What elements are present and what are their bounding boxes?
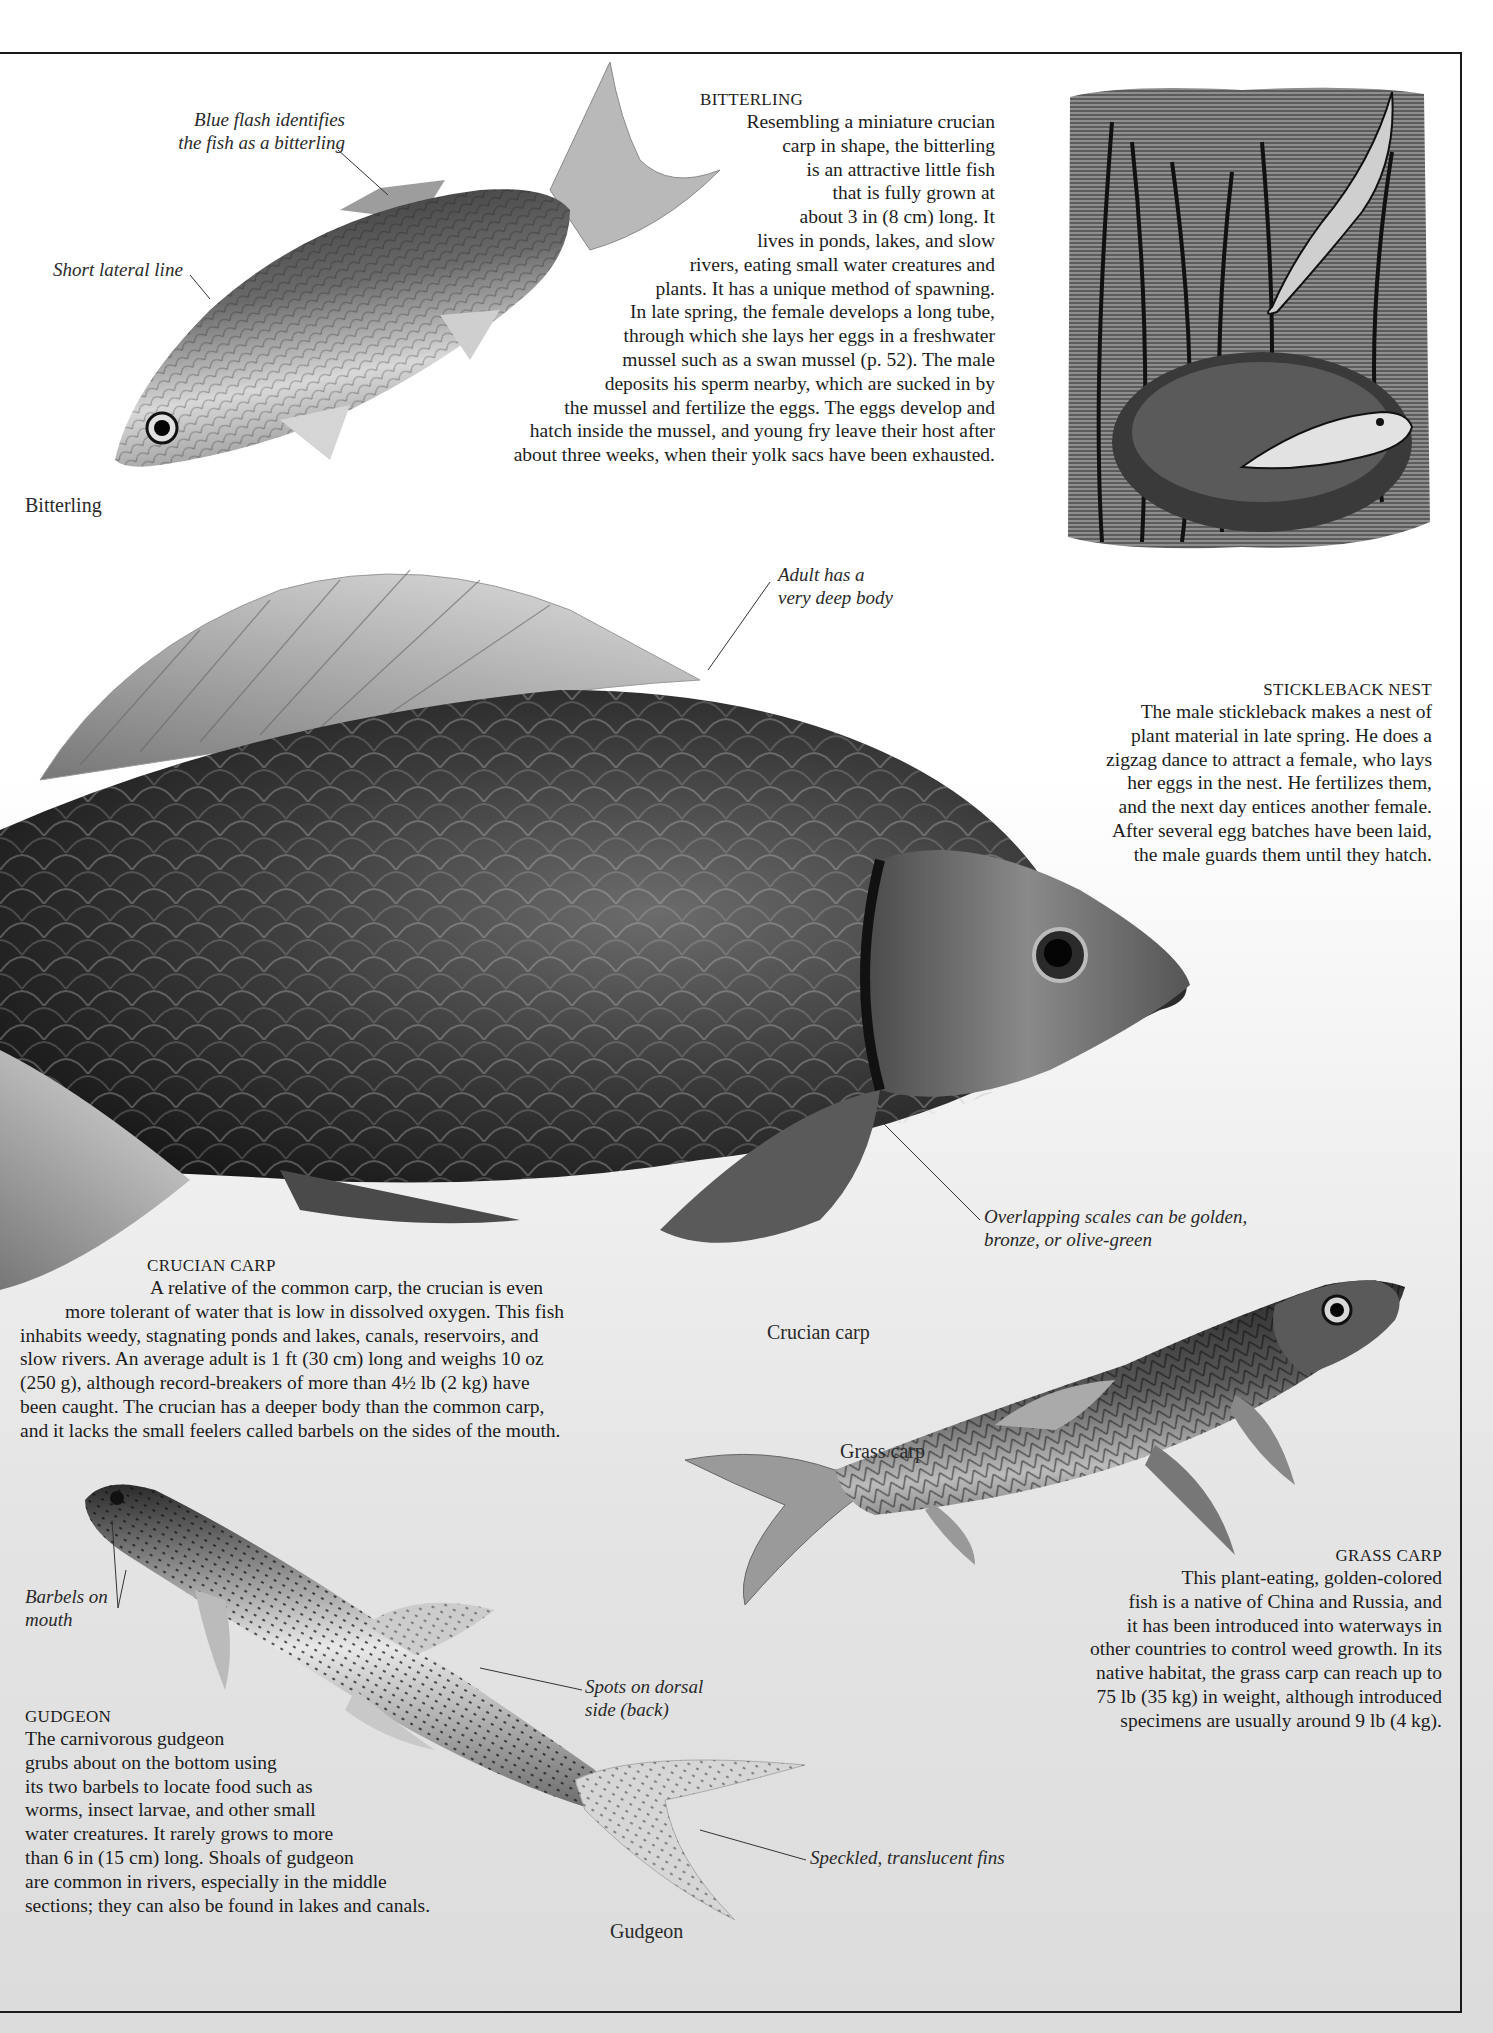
text-line: fish is a native of China and Russia, an…: [1000, 1590, 1442, 1614]
label-lateral-line: Short lateral line: [53, 258, 183, 281]
crucian-carp-fish-image: [0, 530, 1220, 1290]
text-line: than 6 in (15 cm) long. Shoals of gudgeo…: [25, 1846, 525, 1870]
text-line: more tolerant of water that is low in di…: [20, 1300, 660, 1324]
label-spots-dorsal: Spots on dorsal side (back): [585, 1675, 703, 1721]
text-line: the mussel and fertilize the eggs. The e…: [420, 396, 995, 420]
text-line: and it lacks the small feelers called ba…: [20, 1419, 660, 1443]
text-line: A relative of the common carp, the cruci…: [20, 1276, 660, 1300]
leader-line-scales: [880, 1120, 990, 1230]
text-line: other countries to control weed growth. …: [1000, 1637, 1442, 1661]
label-line: the fish as a bitterling: [140, 131, 345, 154]
text-line: grubs about on the bottom using: [25, 1751, 525, 1775]
leader-line-blue-flash: [338, 150, 398, 200]
gudgeon-body: The carnivorous gudgeon grubs about on t…: [25, 1727, 525, 1917]
label-line: Adult has a: [778, 563, 893, 586]
bitterling-heading: BITTERLING: [420, 90, 995, 110]
gudgeon-heading: GUDGEON: [25, 1707, 525, 1727]
label-deep-body: Adult has a very deep body: [778, 563, 893, 609]
text-line: been caught. The crucian has a deeper bo…: [20, 1395, 660, 1419]
caption-bitterling: Bitterling: [25, 494, 102, 517]
text-line: slow rivers. An average adult is 1 ft (3…: [20, 1347, 660, 1371]
grass-carp-body: This plant-eating, golden-colored fish i…: [1000, 1566, 1442, 1733]
label-line: very deep body: [778, 586, 893, 609]
label-line: Overlapping scales can be golden,: [984, 1205, 1247, 1228]
text-line: through which she lays her eggs in a fre…: [420, 324, 995, 348]
right-rule: [1460, 52, 1462, 2012]
text-line: (250 g), although record-breakers of mor…: [20, 1371, 660, 1395]
bottom-rule: [0, 2011, 1462, 2013]
label-line: Barbels on: [25, 1585, 108, 1608]
text-line: is an attractive little fish: [420, 158, 995, 182]
text-line: are common in rivers, especially in the …: [25, 1870, 525, 1894]
text-line: its two barbels to locate food such as: [25, 1775, 525, 1799]
text-line: In late spring, the female develops a lo…: [420, 300, 995, 324]
label-line: Spots on dorsal: [585, 1675, 703, 1698]
top-rule: [0, 52, 1462, 54]
stickleback-nest-engraving: [1062, 82, 1434, 557]
label-scales: Overlapping scales can be golden, bronze…: [984, 1205, 1247, 1251]
text-line: rivers, eating small water creatures and: [420, 253, 995, 277]
text-line: 75 lb (35 kg) in weight, although introd…: [1000, 1685, 1442, 1709]
leader-line-deep-body: [708, 582, 778, 672]
text-line: specimens are usually around 9 lb (4 kg)…: [1000, 1709, 1442, 1733]
text-line: sections; they can also be found in lake…: [25, 1894, 525, 1918]
leader-line-spots: [480, 1668, 585, 1698]
text-line: The carnivorous gudgeon: [25, 1727, 525, 1751]
bitterling-text-block: BITTERLING Resembling a miniature crucia…: [420, 90, 995, 467]
grass-carp-heading: GRASS CARP: [1000, 1546, 1442, 1566]
crucian-heading: CRUCIAN CARP: [20, 1256, 660, 1276]
text-line: Resembling a miniature crucian: [420, 110, 995, 134]
text-line: that is fully grown at: [420, 181, 995, 205]
text-line: deposits his sperm nearby, which are suc…: [420, 372, 995, 396]
crucian-body: A relative of the common carp, the cruci…: [20, 1276, 660, 1443]
gudgeon-text-block: GUDGEON The carnivorous gudgeon grubs ab…: [25, 1707, 525, 1917]
text-line: inhabits weedy, stagnating ponds and lak…: [20, 1324, 660, 1348]
label-blue-flash: Blue flash identifies the fish as a bitt…: [140, 108, 345, 154]
leader-line-barbels: [110, 1520, 130, 1610]
label-line: mouth: [25, 1608, 108, 1631]
grass-carp-text-block: GRASS CARP This plant-eating, golden-col…: [1000, 1546, 1442, 1733]
caption-grass-carp: Grass carp: [840, 1440, 925, 1463]
label-line: bronze, or olive-green: [984, 1228, 1247, 1251]
caption-gudgeon: Gudgeon: [610, 1920, 683, 1943]
label-speckled-fins: Speckled, translucent fins: [810, 1846, 1005, 1869]
leader-line-fins: [700, 1830, 810, 1865]
text-line: This plant-eating, golden-colored: [1000, 1566, 1442, 1590]
text-line: about three weeks, when their yolk sacs …: [420, 443, 995, 467]
text-line: lives in ponds, lakes, and slow: [420, 229, 995, 253]
text-line: plants. It has a unique method of spawni…: [420, 277, 995, 301]
text-line: hatch inside the mussel, and young fry l…: [420, 419, 995, 443]
text-line: about 3 in (8 cm) long. It: [420, 205, 995, 229]
leader-line-lateral-line: [190, 275, 220, 305]
label-line: side (back): [585, 1698, 703, 1721]
text-line: worms, insect larvae, and other small: [25, 1798, 525, 1822]
text-line: carp in shape, the bitterling: [420, 134, 995, 158]
text-line: it has been introduced into waterways in: [1000, 1614, 1442, 1638]
text-line: native habitat, the grass carp can reach…: [1000, 1661, 1442, 1685]
bitterling-body: Resembling a miniature crucian carp in s…: [420, 110, 995, 467]
crucian-text-block: CRUCIAN CARP A relative of the common ca…: [20, 1256, 660, 1443]
label-barbels: Barbels on mouth: [25, 1585, 108, 1631]
label-line: Blue flash identifies: [140, 108, 345, 131]
text-line: water creatures. It rarely grows to more: [25, 1822, 525, 1846]
text-line: mussel such as a swan mussel (p. 52). Th…: [420, 348, 995, 372]
